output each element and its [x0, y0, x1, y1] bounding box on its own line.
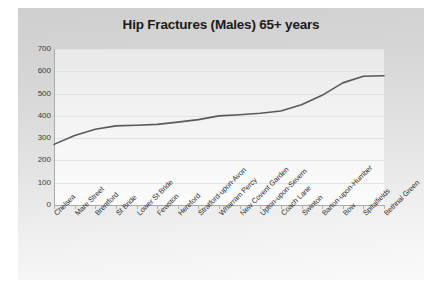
- y-tick-label: 0: [21, 201, 51, 209]
- x-tick-label: Bethnal Green: [382, 178, 421, 217]
- y-tick-label: 400: [21, 112, 51, 120]
- chart-title: Hip Fractures (Males) 65+ years: [18, 17, 424, 32]
- y-tick-label: 600: [21, 67, 51, 75]
- y-tick-label: 200: [21, 156, 51, 164]
- data-series-line: [54, 49, 385, 206]
- y-tick-label: 500: [21, 90, 51, 98]
- y-tick-label: 100: [21, 179, 51, 187]
- chart-panel: Hip Fractures (Males) 65+ years 70060050…: [18, 8, 424, 280]
- y-tick-label: 700: [21, 45, 51, 53]
- y-axis-labels: 7006005004003002001000: [18, 49, 51, 206]
- y-tick-label: 300: [21, 134, 51, 142]
